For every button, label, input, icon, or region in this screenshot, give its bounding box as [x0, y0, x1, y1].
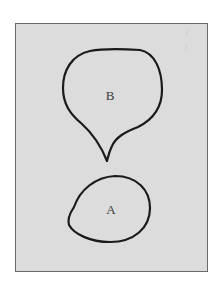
shape-b: B: [63, 49, 162, 161]
shape-b-outline: [63, 49, 162, 161]
shape-a-label: A: [106, 202, 116, 217]
shape-b-label: B: [106, 88, 115, 103]
smudge-mark: [185, 30, 188, 50]
shape-a: A: [68, 176, 150, 242]
diagram-canvas: B A: [0, 0, 223, 290]
